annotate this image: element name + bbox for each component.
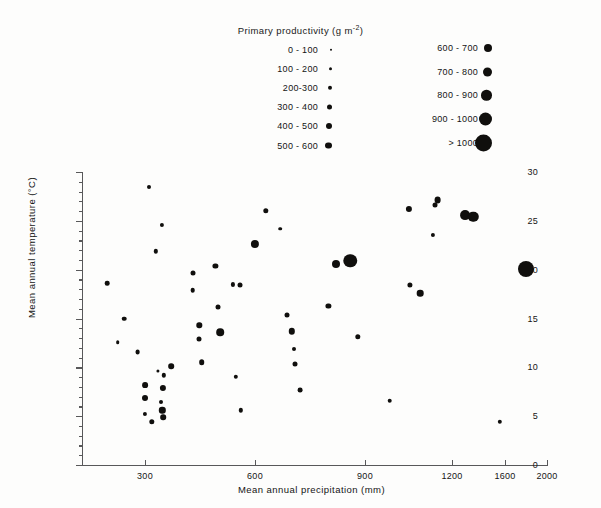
data-point <box>142 395 148 401</box>
data-point <box>135 349 140 354</box>
data-point <box>285 312 290 317</box>
y-tick-label: 25 <box>527 216 538 226</box>
legend-column-right: 600 - 700700 - 800800 - 900900 - 1000> 1… <box>388 36 492 155</box>
legend-title: Primary productivity (g m-2) <box>0 24 601 36</box>
legend-item-label: 300 - 400 <box>277 102 318 112</box>
y-tick-major <box>76 221 82 222</box>
y-tick-minor <box>79 338 83 339</box>
y-tick-minor <box>79 279 83 280</box>
data-point <box>197 323 202 328</box>
data-point <box>199 360 205 366</box>
y-tick-minor <box>79 240 83 241</box>
data-point <box>196 337 201 342</box>
legend-item-label: 400 - 500 <box>277 121 318 131</box>
y-tick-major <box>76 319 82 320</box>
y-tick-minor <box>79 192 83 193</box>
legend-marker-icon <box>329 67 332 70</box>
data-point <box>344 254 358 268</box>
x-tick-major <box>255 460 256 465</box>
y-tick-major <box>76 270 82 271</box>
data-point <box>159 223 163 227</box>
legend-title-text: Primary productivity (g m <box>238 25 353 36</box>
data-point <box>190 288 195 293</box>
legend-item-label: 500 - 600 <box>277 141 318 151</box>
y-tick-minor <box>79 328 83 329</box>
data-point <box>238 283 243 288</box>
y-tick-minor <box>79 250 83 251</box>
y-axis-label: Mean annual temperature (°C) <box>26 177 37 318</box>
data-point <box>292 347 296 351</box>
data-point <box>278 227 282 231</box>
data-point <box>159 407 165 413</box>
data-point <box>251 240 259 248</box>
y-tick-minor <box>79 436 83 437</box>
y-tick-major <box>76 465 82 466</box>
data-point <box>156 370 159 373</box>
y-tick-minor <box>79 201 83 202</box>
x-axis-label: Mean annual precipitation (mm) <box>0 484 601 495</box>
data-point <box>239 408 243 412</box>
data-point <box>122 316 127 321</box>
data-point <box>263 208 268 213</box>
data-point <box>216 304 221 309</box>
legend-marker-icon <box>325 142 332 149</box>
legend-column-left: 0 - 100100 - 200200-300300 - 400400 - 50… <box>232 40 332 155</box>
data-point <box>116 340 120 344</box>
data-point <box>159 400 163 404</box>
y-tick-minor <box>79 348 83 349</box>
legend-marker-icon <box>330 48 332 50</box>
data-point <box>387 398 392 403</box>
data-point <box>142 382 148 388</box>
data-point <box>293 362 298 367</box>
y-tick-major <box>76 172 82 173</box>
data-point <box>160 385 166 391</box>
data-point <box>154 249 158 253</box>
data-point <box>288 328 294 334</box>
legend-marker-icon <box>481 90 492 101</box>
x-tick-major <box>145 460 146 465</box>
legend-item: 0 - 100 <box>232 40 332 59</box>
legend-item: 700 - 800 <box>388 60 492 84</box>
legend-item-label: 800 - 900 <box>437 90 478 100</box>
data-point <box>147 185 151 189</box>
legend-marker-icon <box>479 113 492 126</box>
y-tick-minor <box>79 309 83 310</box>
legend-item: 400 - 500 <box>232 117 332 136</box>
plot-area: 051015202530 300600900120016002000 <box>82 172 548 465</box>
y-tick-minor <box>79 445 83 446</box>
x-tick-label: 2000 <box>536 471 557 481</box>
y-tick-minor <box>79 182 83 183</box>
legend-marker-icon <box>484 44 492 52</box>
x-tick-label: 300 <box>137 471 153 481</box>
data-point <box>497 420 501 424</box>
legend-item-label: 900 - 1000 <box>432 114 478 124</box>
x-tick-label: 1200 <box>441 471 462 481</box>
legend-marker-icon <box>327 105 332 110</box>
legend-item-label: 100 - 200 <box>277 64 318 74</box>
y-tick-minor <box>79 455 83 456</box>
y-tick-label: 30 <box>527 167 538 177</box>
legend-item: 100 - 200 <box>232 59 332 78</box>
legend-item-label: 200-300 <box>283 83 318 93</box>
legend-marker-icon <box>483 67 492 76</box>
data-point <box>297 387 302 392</box>
data-point <box>518 261 534 277</box>
data-point <box>407 283 412 288</box>
legend-item-label: 0 - 100 <box>288 45 318 55</box>
data-point <box>162 373 166 377</box>
legend-marker-icon <box>326 123 332 129</box>
data-point <box>431 232 435 236</box>
data-point <box>143 412 147 416</box>
legend-item: 300 - 400 <box>232 98 332 117</box>
x-tick-major <box>365 460 366 465</box>
data-point <box>191 270 196 275</box>
legend-item: 500 - 600 <box>232 136 332 155</box>
legend-marker-icon <box>328 86 332 90</box>
y-tick-minor <box>79 377 83 378</box>
y-axis-line <box>82 172 83 465</box>
x-tick-label: 900 <box>357 471 373 481</box>
legend-item: > 1000 <box>388 131 492 155</box>
data-point <box>405 206 411 212</box>
data-point <box>355 334 360 339</box>
data-point <box>105 281 110 286</box>
